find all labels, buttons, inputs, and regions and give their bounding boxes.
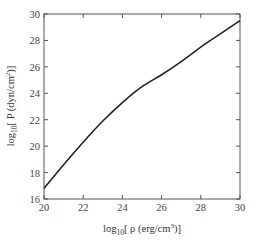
- y-tick-label: 22: [30, 115, 41, 126]
- x-tick-labels: 202224262830: [39, 202, 246, 213]
- y-tick-label: 24: [30, 88, 41, 99]
- data-line: [44, 21, 240, 189]
- y-tick-label: 26: [30, 62, 41, 73]
- x-tick-label: 20: [39, 202, 50, 213]
- x-axis-label: log10[ ρ (erg/cm3)]: [103, 222, 181, 237]
- x-tick-label: 28: [196, 202, 207, 213]
- x-tick-label: 24: [117, 202, 128, 213]
- x-tick-label: 26: [156, 202, 167, 213]
- y-tick-label: 20: [30, 141, 41, 152]
- plot-frame: [44, 14, 240, 199]
- y-tick-label: 16: [30, 194, 41, 205]
- y-tick-labels: 1618202224262830: [30, 9, 41, 205]
- ticks: [44, 14, 240, 199]
- chart: 202224262830 1618202224262830 log10[ ρ (…: [0, 0, 255, 242]
- x-tick-label: 22: [78, 202, 89, 213]
- y-tick-label: 28: [30, 35, 41, 46]
- y-tick-label: 18: [30, 168, 41, 179]
- y-tick-label: 30: [30, 9, 41, 20]
- x-tick-label: 30: [235, 202, 246, 213]
- y-axis-label: log10[ P (dyn/cm2)]: [4, 66, 19, 147]
